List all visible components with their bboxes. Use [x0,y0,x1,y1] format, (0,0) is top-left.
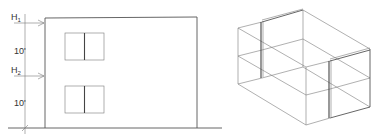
level-label-h2: H2 [11,65,22,76]
dimension-label-lower: 10' [14,98,26,108]
building-outline [45,17,197,128]
window-upper [65,33,104,60]
diagram-canvas: H1 H2 10' 10' [0,0,380,140]
level-label-h1: H1 [11,12,22,23]
dimension-label-upper: 10' [14,46,26,56]
front-elevation: H1 H2 10' 10' [8,12,222,134]
isometric-box [238,9,370,125]
window-lower [65,86,104,113]
wall-panel-right [329,48,370,118]
